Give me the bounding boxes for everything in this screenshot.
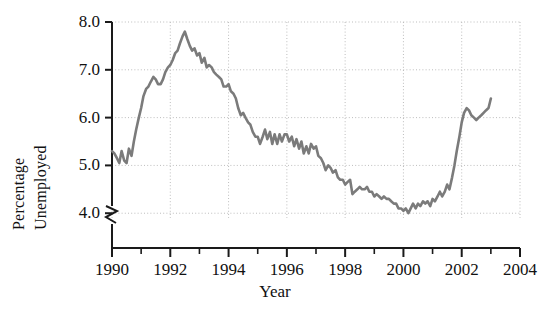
x-tick-label: 1992 [153,260,187,280]
x-tick-label: 2002 [445,260,479,280]
x-tick-label: 1990 [95,260,129,280]
y-tick-label: 5.0 [79,155,106,175]
y-tick-label: 7.0 [79,60,106,80]
x-tick-label: 1994 [212,260,246,280]
data-series-line [112,32,491,214]
y-tick-label: 4.0 [79,203,106,223]
y-tick-label: 8.0 [79,12,106,32]
x-tick-label: 2000 [386,260,420,280]
y-tick-label: 6.0 [79,108,106,128]
x-tick-label: 1996 [270,260,304,280]
gridlines [112,22,520,218]
unemployment-line-chart: Percentage Unemployed Year 4.05.06.07.08… [0,0,550,311]
x-tick-label: 2004 [503,260,537,280]
x-tick-label: 1998 [328,260,362,280]
